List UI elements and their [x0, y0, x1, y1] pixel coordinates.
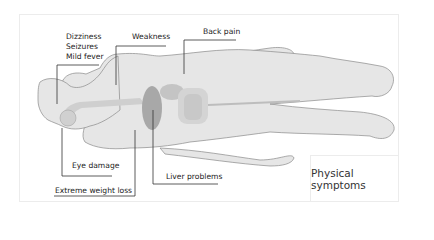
label-back-pain: Back pain — [203, 27, 240, 37]
lower-arm — [160, 148, 294, 166]
label-weakness: Weakness — [132, 32, 170, 42]
label-liver-problems: Liver problems — [166, 172, 222, 182]
intestines-inner — [184, 94, 202, 120]
label-eye-damage: Eye damage — [72, 161, 119, 171]
label-dizziness: Dizziness — [66, 32, 104, 42]
label-extreme-weight-loss: Extreme weight loss — [55, 186, 132, 196]
eye-region — [60, 110, 76, 126]
label-seizures: Seizures — [66, 42, 104, 52]
diagram-title: Physical symptoms — [311, 167, 398, 191]
label-mild-fever: Mild fever — [66, 52, 104, 62]
liver-organ — [142, 86, 162, 130]
label-head-symptoms: Dizziness Seizures Mild fever — [66, 32, 104, 62]
head — [38, 56, 120, 129]
caption-box: Physical symptoms — [310, 155, 398, 201]
